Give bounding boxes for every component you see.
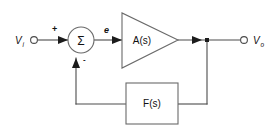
- summing-junction-minus-sign: -: [83, 55, 86, 64]
- output-junction-dot: [205, 38, 209, 42]
- output-terminal-node[interactable]: [241, 37, 248, 44]
- arrowhead-sum-plus-input: [58, 36, 68, 44]
- block-diagram-canvas: V i V o + - Σ e A(s) F(s): [0, 0, 276, 137]
- input-terminal-label-subscript: i: [23, 41, 25, 48]
- arrowhead-output-line: [192, 36, 202, 44]
- summing-junction-sigma-symbol: Σ: [77, 34, 84, 48]
- error-signal-label: e: [104, 25, 109, 35]
- block-diagram-svg: V i V o + - Σ e A(s) F(s): [0, 0, 276, 137]
- forward-gain-label: A(s): [133, 35, 151, 46]
- feedback-gain-label: F(s): [143, 98, 161, 109]
- input-terminal-node[interactable]: [31, 37, 38, 44]
- output-terminal-label-subscript: o: [261, 41, 265, 48]
- arrowhead-sum-minus-input: [72, 58, 80, 68]
- arrowhead-amplifier-input: [112, 36, 122, 44]
- summing-junction-plus-sign: +: [52, 24, 57, 34]
